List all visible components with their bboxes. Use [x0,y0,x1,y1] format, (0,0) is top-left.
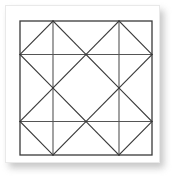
quilt-block-diagram [0,0,176,179]
block-background [20,21,152,155]
figure-root [0,0,176,179]
